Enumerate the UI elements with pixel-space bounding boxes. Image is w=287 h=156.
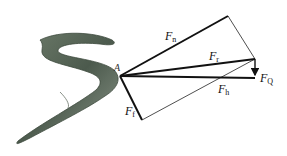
force-fq-label: FQ xyxy=(260,72,273,86)
force-ff-label: Ff xyxy=(125,105,135,119)
force-fn-line xyxy=(120,16,228,76)
force-fr-line xyxy=(120,59,255,76)
force-fn-label: Fn xyxy=(165,30,176,44)
eel-image xyxy=(17,33,118,143)
force-diagram: A Fn Fr Fh Ff FQ xyxy=(0,0,287,156)
force-vectors xyxy=(120,16,255,120)
force-fr-label: Fr xyxy=(209,50,219,64)
force-fh-line xyxy=(120,76,255,78)
point-a-label: A xyxy=(114,62,120,73)
force-fh-label: Fh xyxy=(218,83,229,97)
